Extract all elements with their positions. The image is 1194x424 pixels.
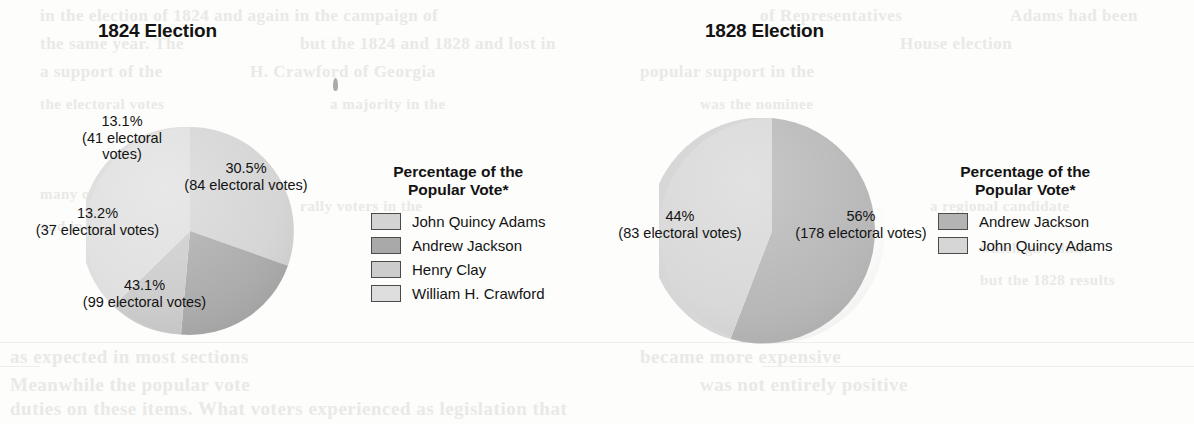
pie-label-jackson-1824-votes: (99 electoral votes)	[57, 294, 232, 311]
pie-label-crawford-1824: 13.1% (41 electoral votes)	[62, 113, 182, 163]
pie-label-adams-1824-votes: (84 electoral votes)	[161, 177, 331, 194]
legend-swatch-william-h-crawford-1824	[371, 285, 401, 302]
legend-title-1828-line2: Popular Vote*	[938, 181, 1112, 199]
legend-item-andrew-jackson-1824[interactable]: Andrew Jackson	[371, 236, 545, 254]
pie-label-crawford-1824-pct: 13.1%	[62, 113, 182, 130]
pie-label-adams-1828: 44% (83 electoral votes)	[590, 208, 770, 241]
legend-title-1828: Percentage of the Popular Vote*	[938, 163, 1112, 199]
pie-label-clay-1824-votes: (37 electoral votes)	[10, 222, 185, 239]
chart-1828-election: 1828 Election 44% (83 electoral v	[580, 0, 1194, 424]
legend-title-1828-line1: Percentage of the	[960, 163, 1090, 180]
scanned-figure-page: in the election of 1824 and again in the…	[0, 0, 1194, 424]
pie-label-clay-1824: 13.2% (37 electoral votes)	[10, 205, 185, 238]
legend-1824: Percentage of the Popular Vote* John Qui…	[371, 163, 545, 308]
pie-label-crawford-1824-votes: (41 electoral	[62, 130, 182, 147]
legend-1828: Percentage of the Popular Vote* Andrew J…	[938, 163, 1112, 260]
legend-swatch-henry-clay-1824	[371, 261, 401, 278]
legend-label-john-quincy-adams-1824: John Quincy Adams	[412, 213, 545, 230]
legend-label-andrew-jackson-1824: Andrew Jackson	[412, 237, 522, 254]
chart-1824-election: 1824 Election	[0, 0, 600, 424]
pie-label-adams-1824: 30.5% (84 electoral votes)	[161, 160, 331, 193]
legend-item-andrew-jackson-1828[interactable]: Andrew Jackson	[938, 212, 1112, 230]
pie-label-clay-1824-pct: 13.2%	[10, 205, 185, 222]
legend-swatch-john-quincy-adams-1828	[938, 237, 968, 254]
pie-label-jackson-1824-pct: 43.1%	[57, 277, 232, 294]
legend-label-william-h-crawford-1824: William H. Crawford	[412, 285, 545, 302]
legend-item-john-quincy-adams-1828[interactable]: John Quincy Adams	[938, 236, 1112, 254]
pie-label-jackson-1828-votes: (178 electoral votes)	[766, 225, 956, 242]
legend-label-andrew-jackson-1828: Andrew Jackson	[979, 213, 1089, 230]
legend-label-henry-clay-1824: Henry Clay	[412, 261, 486, 278]
legend-item-henry-clay-1824[interactable]: Henry Clay	[371, 260, 545, 278]
legend-label-john-quincy-adams-1828: John Quincy Adams	[979, 237, 1112, 254]
legend-swatch-john-quincy-adams-1824	[371, 213, 401, 230]
pie-label-jackson-1828: 56% (178 electoral votes)	[766, 208, 956, 241]
legend-swatch-andrew-jackson-1824	[371, 237, 401, 254]
pie-label-adams-1824-pct: 30.5%	[161, 160, 331, 177]
legend-swatch-andrew-jackson-1828	[938, 213, 968, 230]
pie-label-jackson-1828-pct: 56%	[766, 208, 956, 225]
legend-item-william-h-crawford-1824[interactable]: William H. Crawford	[371, 284, 545, 302]
pie-label-jackson-1824: 43.1% (99 electoral votes)	[57, 277, 232, 310]
pie-label-adams-1828-votes: (83 electoral votes)	[590, 225, 770, 242]
legend-item-john-quincy-adams-1824[interactable]: John Quincy Adams	[371, 212, 545, 230]
chart-title-1828: 1828 Election	[705, 20, 824, 42]
legend-title-1824-line1: Percentage of the	[393, 163, 523, 180]
chart-title-1824: 1824 Election	[98, 20, 217, 42]
legend-title-1824: Percentage of the Popular Vote*	[371, 163, 545, 199]
legend-title-1824-line2: Popular Vote*	[371, 181, 545, 199]
pie-label-adams-1828-pct: 44%	[590, 208, 770, 225]
